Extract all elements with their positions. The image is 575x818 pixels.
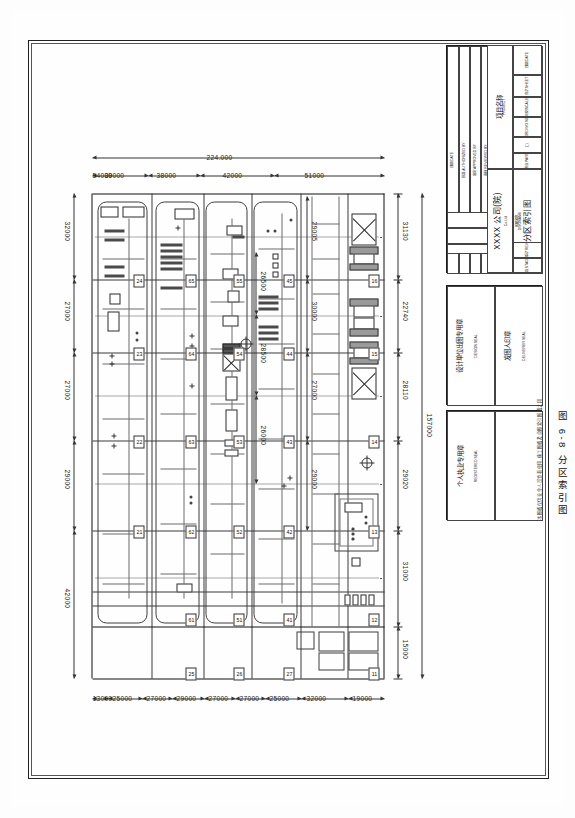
process-internal-line — [258, 388, 294, 389]
process-internal-line — [210, 503, 244, 504]
equipment-column — [160, 249, 182, 252]
equipment-block — [176, 583, 192, 592]
equipment-plus — [189, 383, 194, 388]
interior1-dim-seg — [306, 352, 307, 440]
zone-tag[interactable]: 15 — [368, 347, 379, 360]
zone-tag[interactable]: 26 — [233, 667, 244, 680]
equipment-column — [258, 337, 278, 340]
zone-tag[interactable]: 52 — [233, 525, 244, 538]
process-internal-line — [102, 363, 144, 364]
envelope-left — [92, 193, 384, 194]
zone-tag[interactable]: 13 — [368, 525, 379, 538]
zone-tag-label: 45 — [284, 277, 295, 285]
equipment-column — [160, 261, 182, 264]
equipment-column — [104, 274, 124, 277]
top-dim-seg-2 — [397, 279, 398, 352]
gallery-divider — [312, 293, 339, 294]
zone-tag[interactable]: 62 — [185, 525, 196, 538]
equipment-column — [258, 331, 278, 334]
zone-tag[interactable]: 24 — [133, 274, 144, 287]
company-name-en: Co.Ltd — [504, 216, 509, 226]
overall-horizontal-dim: 157000 — [425, 413, 432, 437]
left-dim-label: 51000 — [304, 171, 324, 178]
zone-tag[interactable]: 45 — [283, 274, 294, 287]
top-dim-seg-4 — [397, 440, 398, 530]
process-internal-line — [160, 573, 196, 574]
process-internal-line — [281, 213, 282, 603]
project-name-cell: 项目名称 PROJECT — [487, 45, 513, 169]
equipment-block — [225, 376, 237, 400]
zone-tag[interactable]: 53 — [233, 435, 244, 448]
gallery-line — [311, 196, 312, 626]
zone-tag[interactable]: 65 — [185, 274, 196, 287]
equipment-column — [104, 229, 124, 232]
project-name-label-en: PROJECT — [502, 99, 507, 115]
person-seal-label-cn: 个人执业专用章 — [458, 445, 463, 487]
field-sheet-value: ( ) — [513, 137, 542, 153]
equipment-column — [258, 307, 278, 310]
bottom-dim-label: 27000 — [63, 301, 70, 321]
gallery-divider — [312, 223, 339, 224]
deliverer-seal-label-cn: 发图人印章 — [505, 331, 510, 361]
process-internal-line — [102, 583, 144, 584]
equipment-dot — [352, 537, 355, 540]
equipment-column — [160, 267, 182, 270]
gallery-divider — [312, 413, 339, 414]
zone-tag-label: 54 — [234, 350, 245, 358]
right-dim-label: 13000 — [92, 694, 112, 701]
zone-tag[interactable]: 55 — [233, 274, 244, 287]
zone-tag-label: 11 — [369, 670, 380, 678]
interior1-dim-seg — [306, 196, 307, 279]
zone-tag[interactable]: 64 — [185, 347, 196, 360]
process-internal-line — [160, 523, 196, 524]
bottom-dim-label: 42000 — [63, 588, 70, 608]
zone-tag[interactable]: 21 — [133, 525, 144, 538]
zone-tag-label: 62 — [186, 528, 197, 536]
company-name-cn: XXXX 公司(院) — [495, 192, 500, 250]
field-sheet-value-text: ( ) — [525, 143, 530, 146]
zone-tag[interactable]: 54 — [233, 347, 244, 360]
equipment-column — [258, 295, 278, 298]
zone-tag[interactable]: 11 — [368, 667, 379, 680]
zone-tag[interactable]: 43 — [283, 435, 294, 448]
zone-tag[interactable]: 12 — [368, 613, 379, 626]
zone-tag[interactable]: 16 — [368, 274, 379, 287]
left-dim-label: 54000 — [92, 171, 112, 178]
top-dim-tick — [393, 626, 402, 627]
top-dim-seg-3 — [397, 352, 398, 440]
equipment-block — [272, 253, 278, 259]
zone-tag[interactable]: 23 — [133, 347, 144, 360]
equipment-block — [224, 449, 238, 456]
equipment-plus — [287, 475, 292, 480]
equipment-dot — [352, 527, 355, 530]
zone-tag-label: 26 — [234, 670, 245, 678]
overall-vertical-dimline — [92, 157, 384, 158]
zone-tag[interactable]: 63 — [185, 435, 196, 448]
zone-tag[interactable]: 41 — [283, 613, 294, 626]
zone-tag[interactable]: 61 — [185, 613, 196, 626]
process-internal-line — [210, 403, 244, 404]
bottom-dim-seg — [73, 352, 74, 440]
process-internal-line — [102, 418, 144, 419]
deliverer-seal-box: 发图人印章 DELIVERER SEAL — [495, 286, 543, 406]
zone-tag[interactable]: 51 — [233, 613, 244, 626]
zone-tag[interactable]: 22 — [133, 435, 144, 448]
bottom-dim-seg — [73, 279, 74, 352]
zone-tag-label: 41 — [284, 616, 295, 624]
company-cell: XXXX 公司(院) Co.Ltd — [487, 169, 513, 273]
zone-tag[interactable]: 27 — [283, 667, 294, 680]
zone-tag[interactable]: 25 — [185, 667, 196, 680]
equipment-block — [368, 594, 374, 605]
drawing-sheet: PN 0° 90° 180° 270° 157000 31130 22740 2… — [0, 0, 575, 818]
zone-tag[interactable]: 44 — [283, 347, 294, 360]
right-dim-label: 25000 — [269, 694, 289, 701]
zone-tag[interactable]: 42 — [283, 525, 294, 538]
top-dim-label: 28110 — [401, 380, 408, 399]
dwg-title-label-en: DWGNAME — [518, 212, 523, 231]
zone-tag[interactable]: 14 — [368, 435, 379, 448]
process-internal-line — [210, 253, 244, 254]
top-dim-label: 15000 — [401, 639, 408, 659]
equipment-plus — [281, 483, 286, 488]
zone-tag-label: 55 — [234, 277, 245, 285]
left-dim-label: 38000 — [156, 171, 176, 178]
